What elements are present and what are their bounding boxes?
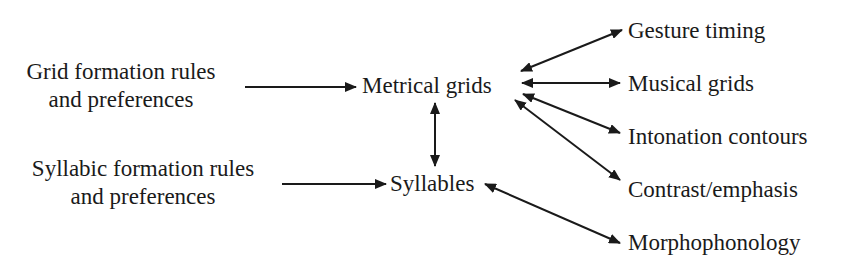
- node-contrast-emphasis: Contrast/emphasis: [628, 176, 798, 204]
- node-intonation-contours: Intonation contours: [628, 123, 808, 151]
- node-gesture-timing: Gesture timing: [628, 17, 765, 45]
- node-grid-formation-rules: Grid formation rules and preferences: [14, 58, 228, 114]
- node-syllabic-formation-rules: Syllabic formation rules and preferences: [10, 155, 276, 211]
- node-morphophonology: Morphophonology: [628, 229, 801, 257]
- node-text-line: Grid formation rules: [14, 58, 228, 86]
- node-text-line: and preferences: [10, 183, 276, 211]
- arrow-metrical-grids-intonation-contours: [523, 94, 620, 133]
- arrow-metrical-grids-gesture-timing: [521, 30, 622, 71]
- node-text-line: and preferences: [14, 86, 228, 114]
- node-musical-grids: Musical grids: [628, 70, 754, 98]
- node-syllables: Syllables: [390, 170, 474, 198]
- node-metrical-grids: Metrical grids: [362, 72, 492, 100]
- arrow-syllables-morphophonology: [485, 184, 620, 243]
- node-text-line: Syllabic formation rules: [10, 155, 276, 183]
